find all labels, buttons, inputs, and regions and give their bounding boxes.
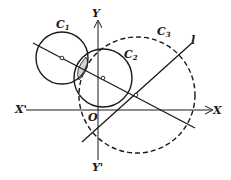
label-c3: C3 — [157, 25, 171, 39]
label-line-l: l — [191, 34, 195, 47]
center-c1-dot — [60, 56, 64, 60]
diagram-figure: C1 C2 C3 l X X' Y Y' O — [0, 0, 231, 180]
label-c2: C2 — [124, 48, 138, 62]
label-x-prime: X' — [14, 103, 27, 116]
x-axis — [26, 106, 213, 114]
label-origin: O — [88, 111, 98, 124]
y-axis — [94, 20, 102, 160]
label-y: Y — [92, 7, 101, 20]
intersection-dot — [134, 93, 138, 97]
label-x: X — [212, 104, 222, 117]
label-c1: C1 — [56, 18, 70, 32]
line-of-centers — [33, 43, 195, 128]
label-y-prime: Y' — [92, 161, 103, 174]
center-c2-dot — [101, 76, 105, 80]
